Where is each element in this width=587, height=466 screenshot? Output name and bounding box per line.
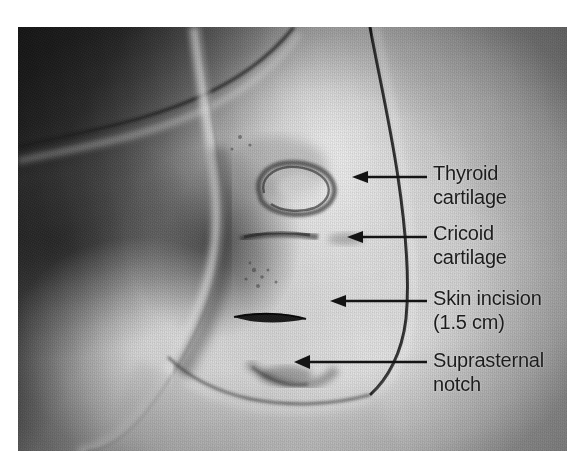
arrow-cricoid-cartilage [347, 231, 427, 243]
arrow-skin-incision [330, 295, 427, 307]
label-suprasternal-notch: Suprasternal notch [433, 348, 544, 396]
label-cricoid-cartilage: Cricoid cartilage [433, 221, 507, 269]
arrow-suprasternal-notch [294, 355, 427, 369]
arrow-thyroid-cartilage [352, 171, 427, 183]
label-skin-incision: Skin incision (1.5 cm) [433, 286, 542, 334]
label-thyroid-cartilage: Thyroid cartilage [433, 161, 507, 209]
figure-canvas: Thyroid cartilage Cricoid cartilage Skin… [0, 0, 587, 466]
